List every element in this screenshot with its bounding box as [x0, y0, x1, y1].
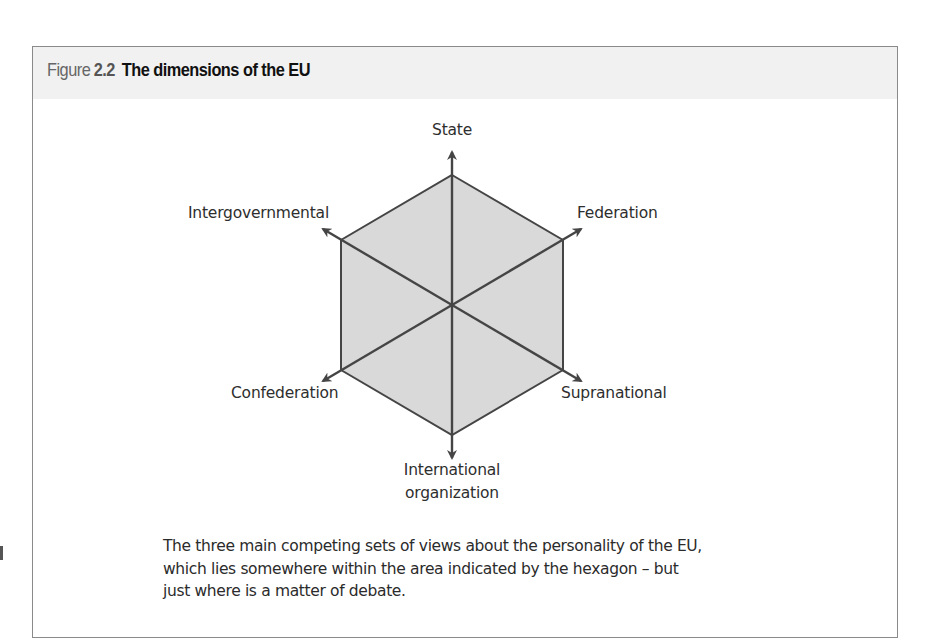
label-federation: Federation: [577, 204, 658, 222]
label-supranational: Supranational: [561, 384, 667, 402]
caption-line-1: The three main competing sets of views a…: [163, 535, 783, 558]
label-intergovernmental: Intergovernmental: [188, 204, 329, 222]
figure-caption: The three main competing sets of views a…: [163, 535, 783, 603]
label-international-line1: International: [382, 459, 522, 482]
label-international-line2: organization: [382, 482, 522, 505]
caption-line-3: just where is a matter of debate.: [163, 580, 783, 603]
label-international-organization: International organization: [382, 459, 522, 505]
caption-line-2: which lies somewhere within the area ind…: [163, 558, 783, 581]
label-confederation: Confederation: [231, 384, 338, 402]
label-state: State: [432, 121, 472, 139]
